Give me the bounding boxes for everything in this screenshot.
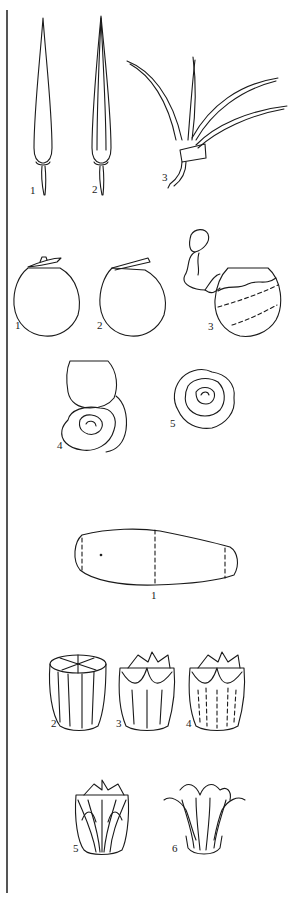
lotus-step-5-label: 5 [73, 843, 79, 854]
chili-step-3-drawing [127, 57, 287, 188]
carving-illustrations [0, 0, 288, 917]
lotus-step-3-label: 3 [116, 718, 122, 729]
lotus-step-4-label: 4 [186, 718, 192, 729]
tomato-step-2-drawing [100, 258, 166, 336]
lotus-step-1-drawing [75, 529, 238, 585]
tomato-step-2-label: 2 [97, 320, 103, 331]
chili-step-2-label: 2 [92, 184, 98, 195]
tomato-step-4-label: 4 [57, 440, 63, 451]
lotus-step-5-drawing [75, 780, 128, 855]
chili-step-1-drawing [34, 18, 52, 195]
lotus-step-1-label: 1 [151, 590, 157, 601]
lotus-step-4-drawing [189, 652, 244, 731]
chili-step-3-label: 3 [162, 172, 168, 183]
illustration-page: 1 2 3 1 2 3 4 5 1 2 3 4 5 6 [0, 0, 288, 917]
tomato-step-1-label: 1 [15, 320, 21, 331]
tomato-step-4-drawing [62, 361, 127, 452]
chili-step-1-label: 1 [30, 185, 36, 196]
tomato-step-1-drawing [14, 257, 80, 336]
lotus-step-3-drawing [119, 652, 174, 731]
lotus-step-2-label: 2 [51, 718, 57, 729]
tomato-step-3-drawing [184, 230, 281, 337]
tomato-step-5-drawing [174, 370, 234, 429]
lotus-step-2-drawing [49, 655, 106, 731]
tomato-step-5-label: 5 [170, 418, 176, 429]
tomato-step-3-label: 3 [208, 321, 214, 332]
lotus-step-6-label: 6 [172, 843, 178, 854]
chili-step-2-drawing [92, 16, 111, 195]
